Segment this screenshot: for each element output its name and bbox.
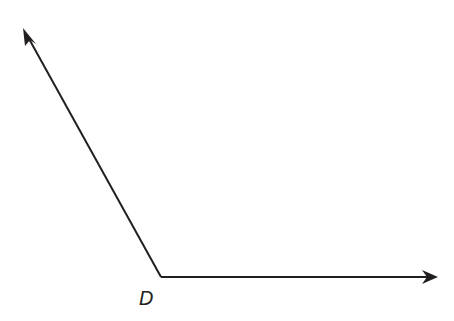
angle-diagram bbox=[0, 0, 454, 321]
ray-upper-left bbox=[28, 37, 161, 277]
arrowhead-upper-left-icon bbox=[23, 28, 36, 46]
vertex-label: D bbox=[139, 287, 154, 309]
